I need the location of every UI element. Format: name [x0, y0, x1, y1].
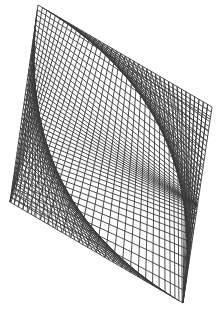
string-line	[182, 89, 183, 302]
string-line	[159, 76, 160, 289]
string-line	[11, 192, 174, 298]
string-art-figure	[0, 0, 223, 314]
string-line	[14, 25, 73, 204]
string-line	[183, 107, 212, 303]
